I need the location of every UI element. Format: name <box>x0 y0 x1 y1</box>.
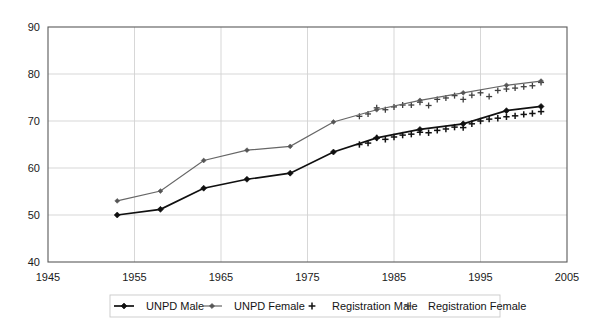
data-point-2-20 <box>529 110 535 116</box>
x-tick-label-1945: 1945 <box>36 271 60 283</box>
x-axis-tick-labels: 1945195519651975198519952005 <box>36 271 579 283</box>
series-registration-male <box>356 108 544 147</box>
x-tick-label-1965: 1965 <box>209 271 233 283</box>
data-point-0-4 <box>287 170 293 176</box>
data-point-0-9 <box>503 108 509 114</box>
data-point-2-18 <box>512 113 518 119</box>
data-point-0-6 <box>374 135 380 141</box>
data-point-0-1 <box>157 206 163 212</box>
legend-label-0: UNPD Male <box>146 300 204 312</box>
data-point-3-8 <box>426 102 432 108</box>
data-point-3-19 <box>521 84 527 90</box>
series-unpd-female <box>115 79 544 204</box>
data-point-1-5 <box>331 120 336 125</box>
y-tick-label-50: 50 <box>28 209 40 221</box>
legend-label-1: UNPD Female <box>234 300 305 312</box>
data-point-3-12 <box>460 96 466 102</box>
data-point-0-2 <box>201 185 207 191</box>
data-point-1-8 <box>461 90 466 95</box>
y-tick-label-80: 80 <box>28 68 40 80</box>
data-point-2-16 <box>495 115 501 121</box>
data-point-2-17 <box>503 114 509 120</box>
series-path-1 <box>117 81 541 201</box>
y-axis-tick-labels: 405060708090 <box>28 21 40 268</box>
y-tick-label-60: 60 <box>28 162 40 174</box>
data-point-3-20 <box>529 83 535 89</box>
data-point-0-3 <box>244 176 250 182</box>
x-tick-label-1975: 1975 <box>295 271 319 283</box>
data-point-2-8 <box>425 130 431 136</box>
series-registration-female <box>356 79 544 119</box>
data-point-1-0 <box>115 199 120 204</box>
data-point-1-3 <box>245 148 250 153</box>
y-tick-label-90: 90 <box>28 21 40 33</box>
data-point-3-15 <box>486 94 492 100</box>
y-tick-label-70: 70 <box>28 115 40 127</box>
grid-lines <box>48 27 567 262</box>
data-point-0-0 <box>114 212 120 218</box>
x-tick-label-2005: 2005 <box>555 271 579 283</box>
chart-legend: UNPD MaleUNPD FemaleRegistration MaleReg… <box>110 295 526 317</box>
x-tick-label-1995: 1995 <box>468 271 492 283</box>
data-point-0-8 <box>460 121 466 127</box>
data-point-3-16 <box>495 87 501 93</box>
data-point-0-5 <box>330 149 336 155</box>
data-point-3-13 <box>469 92 475 98</box>
x-tick-label-1955: 1955 <box>122 271 146 283</box>
chart-container: 405060708090 194519551965197519851995200… <box>0 0 608 329</box>
data-point-1-4 <box>288 144 293 149</box>
life-expectancy-line-chart: 405060708090 194519551965197519851995200… <box>0 0 608 329</box>
data-point-1-9 <box>504 83 509 88</box>
data-point-2-19 <box>521 111 527 117</box>
y-tick-label-40: 40 <box>28 256 40 268</box>
data-point-3-18 <box>512 85 518 91</box>
data-point-0-10 <box>538 103 544 109</box>
x-tick-label-1985: 1985 <box>382 271 406 283</box>
series-path-0 <box>117 106 541 215</box>
legend-label-3: Registration Female <box>428 300 526 312</box>
